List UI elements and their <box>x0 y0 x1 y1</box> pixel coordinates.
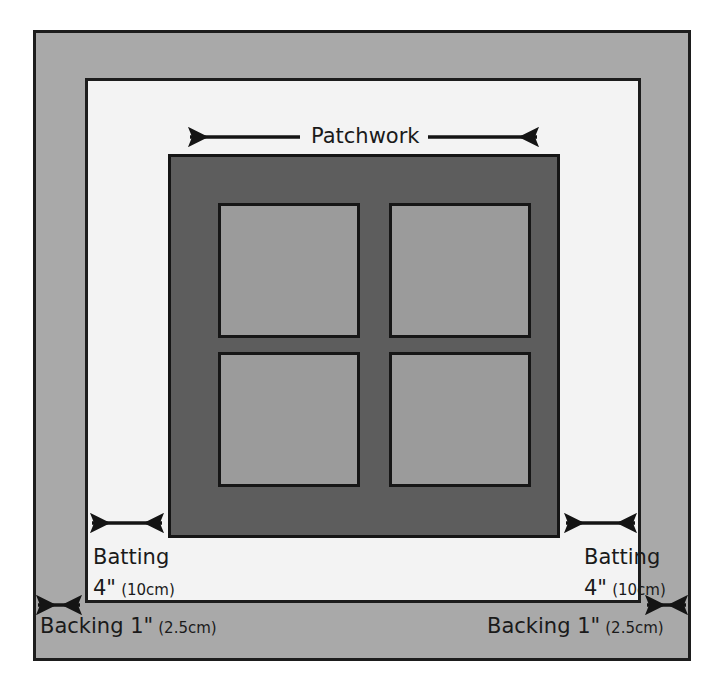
batting-right-metric-value: (10cm) <box>612 581 666 599</box>
batting-right-imperial-value: 4" <box>584 576 607 600</box>
patchwork-label: Patchwork <box>303 126 428 147</box>
batting-left-label: Batting <box>93 547 169 568</box>
backing-left-metric-value: (2.5cm) <box>158 619 216 637</box>
batting-right-label: Batting <box>584 547 660 568</box>
backing-right-label: Backing 1" (2.5cm) <box>487 616 664 637</box>
batting-left-metric-value: (10cm) <box>121 581 175 599</box>
patch-square-top-left <box>218 203 360 338</box>
batting-right-measurement: 4" (10cm) <box>584 578 666 599</box>
backing-left-title-value: Backing 1" <box>40 614 153 638</box>
patch-square-bottom-left <box>218 352 360 487</box>
patch-square-top-right <box>389 203 531 338</box>
backing-right-metric-value: (2.5cm) <box>605 619 663 637</box>
batting-left-imperial-value: 4" <box>93 576 116 600</box>
batting-left-measurement: 4" (10cm) <box>93 578 175 599</box>
backing-left-label: Backing 1" (2.5cm) <box>40 616 217 637</box>
quilt-diagram-canvas: Patchwork Batting 4" (10cm) Batting 4" (… <box>0 0 724 691</box>
patch-square-bottom-right <box>389 352 531 487</box>
backing-right-title-value: Backing 1" <box>487 614 600 638</box>
